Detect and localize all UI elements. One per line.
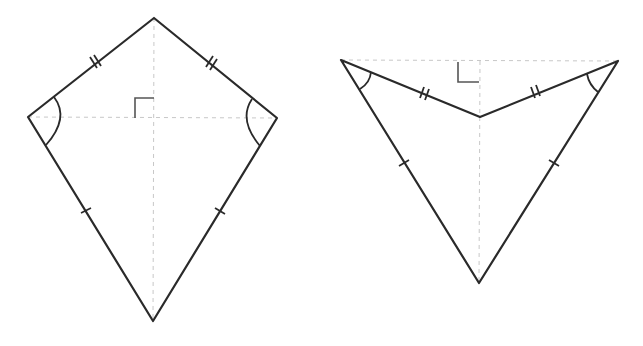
- dart-diagonal-horizontal: [341, 60, 618, 61]
- kite-diagonal-vertical: [153, 18, 154, 321]
- dart-right-angle-mark: [458, 62, 479, 82]
- dart-angle-arc-right: [587, 74, 598, 92]
- kite-right-angle-mark: [135, 98, 154, 118]
- dart-angle-arc-left: [360, 72, 371, 89]
- kite-angle-arc-right: [247, 99, 260, 146]
- dart-figure: [341, 60, 618, 283]
- kite-diagonal-horizontal: [28, 117, 277, 118]
- kite-angle-arc-left: [46, 97, 60, 145]
- dart-diagonal-vertical: [479, 61, 480, 283]
- kite-outline: [28, 18, 277, 321]
- kite-figure: [28, 18, 277, 321]
- diagram-canvas: [0, 0, 643, 346]
